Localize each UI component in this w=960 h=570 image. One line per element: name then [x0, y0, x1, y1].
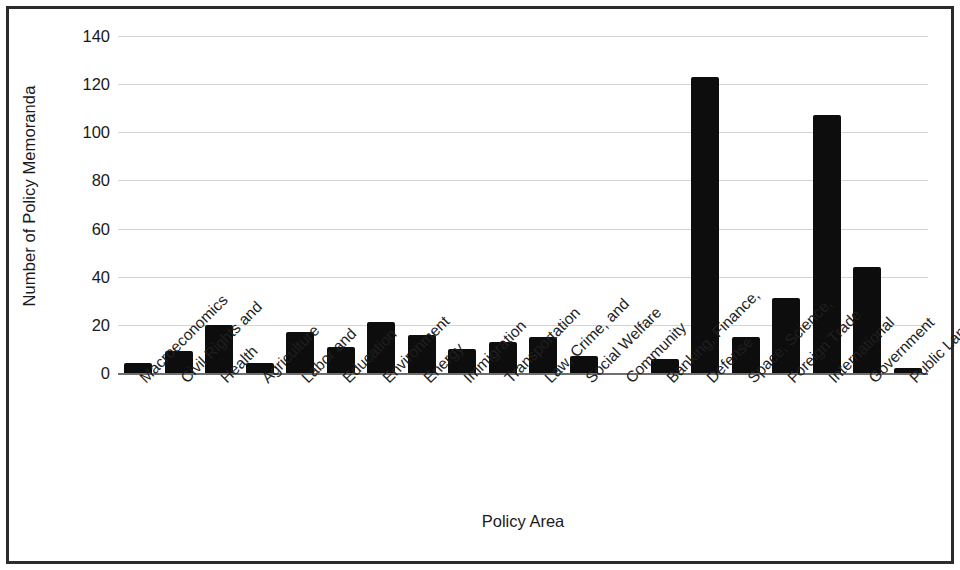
- x-axis-tick-label: Transportation: [501, 374, 513, 386]
- y-axis-tick-label: 80: [56, 172, 110, 189]
- y-axis-tick-label: 140: [56, 28, 110, 45]
- x-axis-tick-label: Environment: [379, 374, 391, 386]
- x-axis-tick-label: Immigration: [460, 374, 472, 386]
- x-axis-tick-label: Space, Science,: [744, 374, 756, 386]
- y-axis-tick-label: 120: [56, 76, 110, 93]
- x-axis-tick-label: Government: [865, 374, 877, 386]
- x-axis-tick-label: Education: [339, 374, 351, 386]
- y-axis-tick-labels: 020406080100120140: [48, 36, 110, 373]
- x-axis-tick-label: Agriculture: [258, 374, 270, 386]
- x-axis-tick-label: Banking, Finance,: [663, 374, 675, 386]
- y-axis-title: Number of Policy Memoranda: [20, 6, 48, 386]
- x-axis-tick-label: Social Welfare: [582, 374, 594, 386]
- x-axis-tick-labels: MacroeconomicsCivil Rights andHealthAgri…: [118, 374, 948, 502]
- x-axis-tick-label: Foreign Trade: [784, 374, 796, 386]
- x-axis-tick-label: Health: [217, 374, 229, 386]
- x-axis-tick-label: International: [825, 374, 837, 386]
- x-axis-tick-label: Civil Rights and: [177, 374, 189, 386]
- y-axis-tick-label: 60: [56, 221, 110, 238]
- y-axis-tick-label: 40: [56, 269, 110, 286]
- x-axis-tick-label: Law, Crime, and: [541, 374, 553, 386]
- x-axis-tick-label: Public Lands: [906, 374, 918, 386]
- x-axis-tick-label: Energy: [420, 374, 432, 386]
- x-axis-title: Policy Area: [118, 512, 928, 531]
- y-axis-tick-label: 20: [56, 317, 110, 334]
- y-axis-tick-label: 100: [56, 124, 110, 141]
- x-axis-tick-label: Macroeconomics: [136, 374, 148, 386]
- y-axis-tick-label: 0: [56, 365, 110, 382]
- x-axis-tick-label: Community: [622, 374, 634, 386]
- x-axis-tick-label: Labor and: [298, 374, 310, 386]
- x-axis-tick-label: Defense: [703, 374, 715, 386]
- bar-chart-figure: Number of Policy Memoranda 0204060801001…: [0, 0, 960, 570]
